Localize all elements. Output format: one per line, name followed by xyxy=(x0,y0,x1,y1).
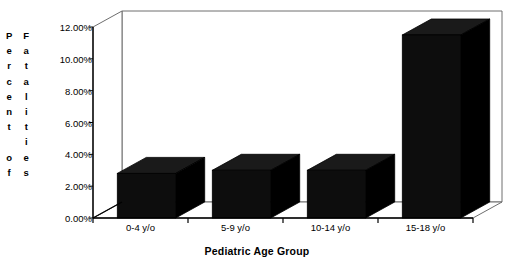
x-axis-tick-label: 15-18 y/o xyxy=(406,222,446,233)
bar-3 xyxy=(307,154,394,218)
bar-front-face xyxy=(402,35,460,218)
x-axis-title: Pediatric Age Group xyxy=(0,245,514,257)
bar-front-face xyxy=(117,173,175,218)
x-axis-tick-labels: 0-4 y/o5-9 y/o10-14 y/o15-18 y/o xyxy=(0,222,514,238)
bar-2 xyxy=(212,154,299,218)
x-axis-tick-label: 0-4 y/o xyxy=(126,222,155,233)
x-axis-tick-label: 10-14 y/o xyxy=(311,222,351,233)
bar-front-face xyxy=(307,170,365,218)
bar-1 xyxy=(117,157,204,218)
x-axis-tick-label: 5-9 y/o xyxy=(221,222,250,233)
bar-front-face xyxy=(212,170,270,218)
bar-chart: P e r c e n t x o f F a t a l i t i e s … xyxy=(0,0,514,269)
bar-4 xyxy=(402,19,489,218)
bar-side-face xyxy=(461,19,490,218)
